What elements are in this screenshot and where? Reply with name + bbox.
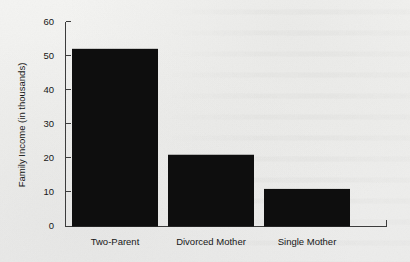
y-tick-label-60: 60 xyxy=(43,16,54,27)
y-axis-title: Family Income (in thousands) xyxy=(16,63,27,188)
x-category-label-two-parent: Two-Parent xyxy=(91,236,140,247)
bar-chart: Family Income (in thousands) 60 50 40 30… xyxy=(0,0,410,262)
x-category-label-divorced-mother: Divorced Mother xyxy=(176,236,246,247)
y-tick-label-0: 0 xyxy=(49,220,54,231)
y-tick-label-10: 10 xyxy=(43,186,54,197)
bar-two-parent xyxy=(72,49,158,227)
bar-single-mother xyxy=(264,189,350,227)
y-tick-label-20: 20 xyxy=(43,152,54,163)
y-tick-label-30: 30 xyxy=(43,118,54,129)
y-tick-label-50: 50 xyxy=(43,50,54,61)
chart-svg: Family Income (in thousands) 60 50 40 30… xyxy=(0,0,410,262)
x-category-label-single-mother: Single Mother xyxy=(278,236,337,247)
y-tick-label-40: 40 xyxy=(43,84,54,95)
bar-divorced-mother xyxy=(168,155,254,227)
